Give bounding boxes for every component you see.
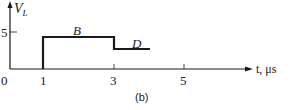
segment-label-b: B bbox=[73, 24, 81, 37]
x-axis-label-text: t, μs bbox=[256, 62, 276, 76]
segment-label-d: D bbox=[132, 37, 141, 50]
x-axis-arrow-icon bbox=[245, 67, 253, 72]
figure-caption: (b) bbox=[135, 92, 148, 103]
y-axis-arrow-icon bbox=[8, 1, 13, 8]
x-tick-label-0: 0 bbox=[1, 74, 8, 87]
x-axis-label: t, μs bbox=[256, 63, 276, 75]
y-tick-label-5: 5 bbox=[1, 26, 8, 39]
y-axis-label-sub: L bbox=[23, 8, 28, 18]
x-tick-label-1: 1 bbox=[40, 74, 47, 87]
y-axis-label: VL bbox=[14, 2, 28, 18]
y-axis-label-main: V bbox=[14, 1, 23, 16]
x-tick-label-5: 5 bbox=[180, 74, 187, 87]
x-tick-label-3: 3 bbox=[110, 74, 117, 87]
